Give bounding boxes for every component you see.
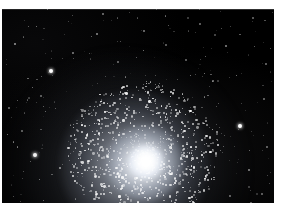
- caption-layer: [0, 0, 287, 203]
- image-canvas: [0, 0, 287, 203]
